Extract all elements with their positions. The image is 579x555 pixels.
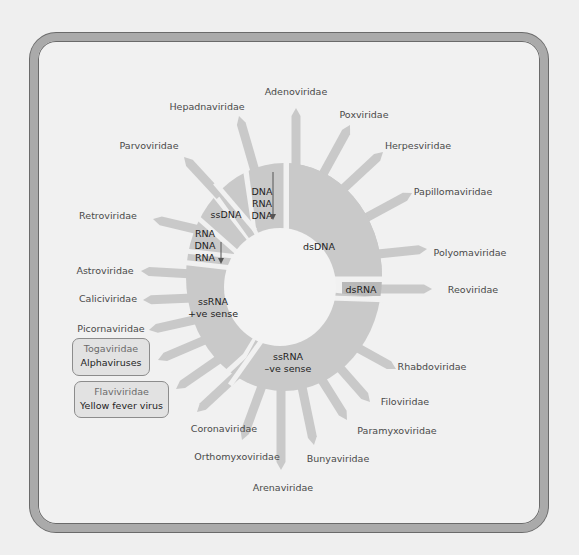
family-papillomaviridae: Papillomaviridae [414,186,493,197]
family-astroviridae: Astroviridae [76,265,133,276]
label-rna-1: RNA [252,198,273,209]
label-ssrna-neg-1: ssRNA [273,351,304,362]
spoke-arrow [378,285,432,294]
yellow-fever-label: Yellow fever virus [75,399,168,413]
spoke-arrow [337,365,370,402]
spoke-arrow [143,294,193,305]
togaviridae-label: Togaviridae [73,342,149,356]
togaviridae-box: Togaviridae Alphaviruses [72,338,150,376]
family-filoviridae: Filoviridae [381,396,430,407]
label-rna-c: RNA [195,252,216,263]
family-adenoviridae: Adenoviridae [265,86,328,97]
label-ssrna-pos-1: ssRNA [198,296,229,307]
family-caliciviridae: Caliciviridae [79,293,137,304]
label-ssdna: ssDNA [211,209,242,220]
label-dna-2: DNA [252,210,273,221]
spoke-arrow [298,386,317,445]
label-ssrna-pos-2: +ve sense [188,308,238,319]
family-polyomaviridae: Polyomaviridae [434,247,507,258]
label-dna-1: DNA [252,186,273,197]
spoke-arrow [378,245,428,258]
label-rna-a: RNA [195,228,216,239]
virus-genome-wheel: dsDNA DNA RNA DNA ssDNA RNA DNA RNA ssRN… [0,0,579,555]
spoke-arrow [339,152,383,193]
family-coronaviridae: Coronaviridae [191,423,257,434]
spoke-arrow [318,378,347,420]
family-bunyaviridae: Bunyaviridae [307,453,370,464]
family-reoviridae: Reoviridae [448,284,498,295]
family-paramyxoviridae: Paramyxoviridae [357,425,437,436]
family-orthomyxoviridae: Orthomyxoviridae [194,451,280,462]
family-parvoviridae: Parvoviridae [120,140,179,151]
spoke-arrow [141,267,193,279]
label-dsdna: dsDNA [303,241,335,252]
family-arenaviridae: Arenaviridae [253,482,314,493]
family-picornaviridae: Picornaviridae [77,323,144,334]
spoke-arrow [356,344,396,369]
spoke-arrow [184,157,223,199]
family-rhabdoviridae: Rhabdoviridae [398,361,467,372]
alphaviruses-label: Alphaviruses [73,356,149,370]
label-ssrna-neg-2: –ve sense [265,363,312,374]
spoke-arrow [318,125,350,178]
family-retroviridae: Retroviridae [79,210,137,221]
flaviviridae-label: Flaviviridae [75,385,168,399]
family-hepadnaviridae: Hepadnaviridae [169,101,244,112]
flaviviridae-box: Flaviviridae Yellow fever virus [74,381,169,418]
label-dsrna: dsRNA [345,284,377,295]
family-herpesviridae: Herpesviridae [385,140,451,151]
label-dna-b: DNA [195,240,216,251]
family-poxviridae: Poxviridae [339,109,388,120]
